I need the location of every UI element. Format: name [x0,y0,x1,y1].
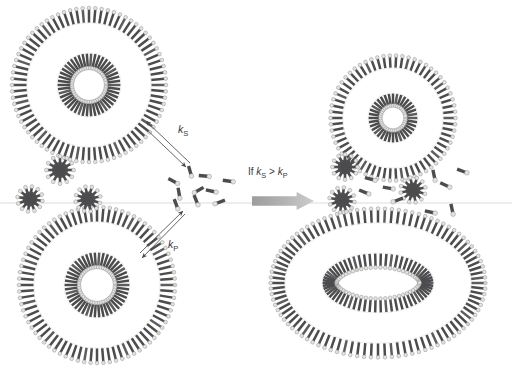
rate-label-ks: kS [178,123,188,138]
free-monomer-left-8 [194,195,200,207]
label-layer: kS kP If kS > kP [168,123,288,253]
free-monomer-left-2 [199,174,212,179]
free-monomer-left-7 [174,199,180,211]
transition-block-arrow [252,192,314,210]
arrow-layer [140,121,314,258]
free-monomer-right-4 [440,183,452,190]
spherical-vesicle-mixed-surfactant [17,205,177,365]
spherical-vesicle-small-surfactant [10,6,168,164]
rate-label-kp: kP [168,238,178,253]
figure-canvas: kS kP If kS > kP [0,0,512,374]
free-monomer-right-1 [433,170,438,183]
free-monomer-right-3 [383,187,396,192]
micelle-right-1 [328,186,357,215]
free-monomer-left-3 [223,179,236,184]
diagram-svg: kS kP If kS > kP [0,0,512,374]
micelle-left-1 [16,185,45,214]
condition-label: If kS > kP [248,166,288,180]
free-monomer-right-0 [365,178,377,183]
free-monomer-left-1 [168,179,180,186]
micelle-left-2 [74,185,102,213]
free-monomer-left-4 [178,188,183,201]
free-monomer-right-2 [359,190,371,196]
ellipsoidal-vesicle-grown [269,207,488,360]
free-monomer-left-6 [206,190,219,195]
free-monomer-left-0 [189,166,194,178]
reversible-arrow-ks-a [146,121,190,163]
free-monomer-right-8 [457,169,469,175]
free-monomer-left-5 [192,187,203,195]
monomer-layer [168,166,469,216]
free-monomer-right-7 [451,204,456,217]
